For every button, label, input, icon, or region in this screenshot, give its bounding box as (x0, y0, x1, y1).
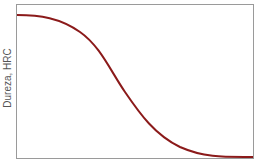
hardness-curve (17, 15, 253, 157)
chart-plot (0, 0, 257, 166)
plot-frame (17, 5, 254, 159)
